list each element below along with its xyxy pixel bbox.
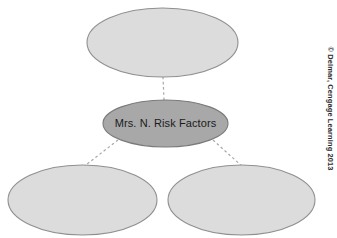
node-ellipse-center[interactable] [103,100,228,147]
connector-center-to-bottom-right [213,140,244,168]
connector-center-to-top [163,77,164,100]
node-ellipse-bottom-left[interactable] [8,165,157,235]
node-ellipse-bottom-right[interactable] [168,165,315,235]
diagram-canvas [0,0,337,238]
connector-center-to-bottom-left [82,140,118,168]
concept-map-diagram: Mrs. N. Risk Factors © Delmar, Cengage L… [0,0,337,238]
copyright-notice: © Delmar, Cengage Learning 2013 [326,47,335,171]
node-ellipse-top[interactable] [87,8,238,77]
